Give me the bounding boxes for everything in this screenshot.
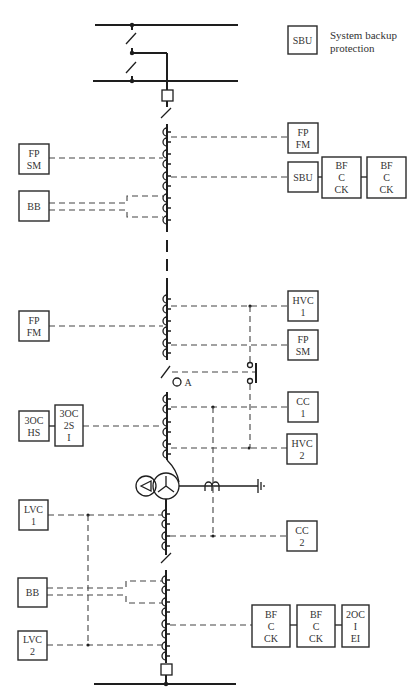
relay-label-line: CC <box>296 396 310 407</box>
relay-label-line: C <box>268 621 275 632</box>
relay-label-line: FM <box>27 327 42 338</box>
relay-fp-sm-2: FPSM <box>288 330 318 360</box>
relay-3oc-2s-i: 3OC2SI <box>55 405 83 446</box>
power-transformer-icon <box>136 473 264 499</box>
relay-label-line: BF <box>335 160 348 171</box>
relay-label-line: I <box>67 432 70 443</box>
relay-label-line: SM <box>296 346 311 357</box>
relay-sbu-1: SBU <box>288 162 318 192</box>
relay-label-line: 1 <box>301 307 306 318</box>
relay-label-line: C <box>313 621 320 632</box>
relay-label-line: 1 <box>301 408 306 419</box>
protection-scheme-diagram: SBU System backup protection <box>0 0 420 698</box>
switch-a-icon <box>161 366 170 378</box>
relay-label-line: FP <box>28 148 40 159</box>
relay-cc-1: CC1 <box>288 392 318 422</box>
relay-label-line: FP <box>297 334 309 345</box>
legend-sbu-label: SBU <box>293 35 313 46</box>
relay-bb-1: BB <box>19 191 49 221</box>
disconnector-icon <box>126 33 136 44</box>
relay-label-line: 2S <box>64 420 75 431</box>
relay-cc-2: CC2 <box>287 521 317 551</box>
relay-boxes: FPSMBBFPFMSBUBFCCKBFCCKFPFMHVC1FPSMCC13O… <box>18 123 406 660</box>
relay-label-line: 2 <box>300 537 305 548</box>
relay-label-line: FM <box>296 139 311 150</box>
relay-label-line: BF <box>265 609 278 620</box>
relay-label-line: SBU <box>293 172 313 183</box>
relay-hvc-1: HVC1 <box>288 291 318 321</box>
relay-label-line: CK <box>309 633 324 644</box>
hv-feeder: A <box>161 81 192 482</box>
relay-label-line: 2 <box>300 450 305 461</box>
relay-label-line: HS <box>28 427 41 438</box>
current-transformer-stack-3 <box>163 395 171 458</box>
switch-a-contact-icon <box>173 378 181 386</box>
bus-selector-disconnectors <box>126 23 167 83</box>
disconnector-icon <box>126 62 136 73</box>
relay-label-line: LVC <box>23 634 42 645</box>
relay-bf-c-ck-4: BFCCK <box>297 605 335 647</box>
relay-lvc-2: LVC2 <box>18 631 47 660</box>
relay-label-line: HVC <box>292 295 313 306</box>
lv-feeder <box>161 499 172 686</box>
relay-label-line: 2OC <box>346 609 365 620</box>
relay-label-line: 1 <box>31 516 36 527</box>
relay-label-line: BB <box>26 587 40 598</box>
relay-label-line: BF <box>380 160 393 171</box>
legend-description-line1: System backup <box>330 29 397 41</box>
legend: SBU System backup protection <box>288 26 397 54</box>
relay-bf-c-ck-1: BFCCK <box>322 157 361 198</box>
relay-label-line: CK <box>264 633 279 644</box>
relay-label-line: C <box>383 172 390 183</box>
relay-label-line: FP <box>28 315 40 326</box>
relay-label-line: HVC <box>291 438 312 449</box>
legend-description-line2: protection <box>330 42 375 54</box>
disconnector-icon <box>161 108 171 118</box>
relay-label-line: EI <box>351 633 360 644</box>
relay-fp-fm-2: FPFM <box>19 311 49 341</box>
relay-label-line: LVC <box>24 504 43 515</box>
delta-winding-icon <box>141 481 151 491</box>
relay-label-line: CC <box>295 525 309 536</box>
earth-ground-icon <box>258 479 264 493</box>
circuit-breaker-icon <box>162 90 173 101</box>
switch-a-label: A <box>184 377 192 388</box>
relay-label-line: CK <box>380 184 395 195</box>
relay-label-line: BF <box>310 609 323 620</box>
relay-lvc-1: LVC1 <box>19 500 48 530</box>
relay-label-line: CK <box>335 184 350 195</box>
relay-label-line: C <box>338 172 345 183</box>
relay-label-line: 2 <box>30 646 35 657</box>
secondary-wiring <box>47 137 367 647</box>
relay-fp-sm-1: FPSM <box>19 144 49 174</box>
relay-hvc-2: HVC2 <box>287 434 317 464</box>
relay-3oc-hs: 3OCHS <box>19 411 49 441</box>
relay-label-line: 3OC <box>25 415 44 426</box>
relay-label-line: BB <box>27 201 41 212</box>
relay-label-line: 3OC <box>60 408 79 419</box>
relay-label-line: SM <box>27 160 42 171</box>
star-winding-icon <box>158 476 174 492</box>
relay-2oc-i-ei: 2OCIEI <box>342 605 369 647</box>
relay-bb-2: BB <box>18 578 47 607</box>
relay-bf-c-ck-2: BFCCK <box>367 157 406 198</box>
relay-label-line: FP <box>297 127 309 138</box>
relay-bf-c-ck-3: BFCCK <box>252 605 290 647</box>
relay-label-line: I <box>354 621 357 632</box>
relay-fp-fm-1: FPFM <box>288 123 318 153</box>
circuit-breaker-icon <box>161 664 172 675</box>
